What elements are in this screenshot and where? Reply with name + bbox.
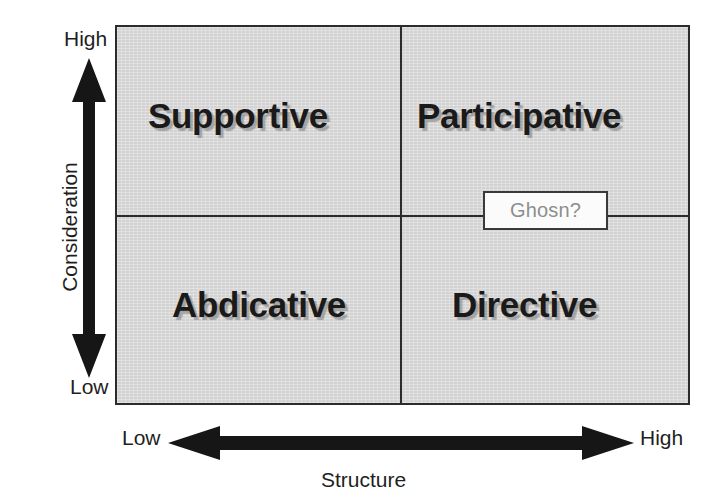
y-axis-high-label: High [64, 27, 107, 51]
quadrant-label-directive: Directive [452, 285, 597, 325]
ghosn-callout-box: Ghosn? [483, 191, 608, 230]
ghosn-callout-label: Ghosn? [510, 199, 581, 222]
x-axis-high-label: High [640, 426, 683, 450]
structure-axis-arrow [168, 424, 634, 462]
x-axis-low-label: Low [122, 426, 161, 450]
y-axis-title: Consideration [58, 127, 82, 327]
quadrant-label-participative: Participative [417, 96, 621, 136]
x-axis-title: Structure [0, 468, 727, 492]
quadrant-label-supportive: Supportive [148, 96, 328, 136]
quadrant-label-abdicative: Abdicative [172, 285, 346, 325]
leadership-style-matrix-figure: High Low Consideration Low High Structur… [0, 0, 727, 501]
y-axis-low-label: Low [70, 375, 109, 399]
